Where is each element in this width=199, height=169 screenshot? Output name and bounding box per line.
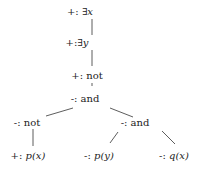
edge-and-to-not <box>46 108 73 116</box>
node-sign: +: <box>71 70 83 81</box>
node-label: ∃x <box>82 6 93 17</box>
node-sign: -: <box>71 93 78 104</box>
edge-and-to-qx <box>162 131 175 144</box>
node-sign: -: <box>121 117 128 128</box>
edge-and-to-and <box>110 108 133 117</box>
node-sign: +: <box>67 6 79 17</box>
node-label: not <box>24 117 40 128</box>
node-and-root: -: and <box>71 93 100 105</box>
node-label: p(y) <box>94 150 114 161</box>
node-p-x: +: p(x) <box>11 150 46 162</box>
node-sign: -: <box>14 117 21 128</box>
node-and-right: -: and <box>121 117 150 129</box>
node-sign: +: <box>66 37 78 48</box>
node-sign: -: <box>159 150 166 161</box>
node-not-root: +: not <box>71 70 102 82</box>
node-label: not <box>86 70 102 81</box>
tree-edges <box>0 0 199 169</box>
node-sign: +: <box>11 150 23 161</box>
signed-formula-tree: +: ∃x +:∃y +: not -: and -: not -: and +… <box>0 0 199 169</box>
node-label: ∃y <box>77 37 88 48</box>
node-exists-x: +: ∃x <box>67 6 93 18</box>
node-exists-y: +:∃y <box>66 37 89 49</box>
node-p-y: -: p(y) <box>84 150 114 162</box>
node-label: p(x) <box>26 150 46 161</box>
node-not-left: -: not <box>14 117 40 129</box>
edge-and-to-py <box>110 132 118 143</box>
node-label: and <box>131 117 150 128</box>
node-label: and <box>81 93 100 104</box>
node-label: q(x) <box>169 150 189 161</box>
node-sign: -: <box>84 150 91 161</box>
node-q-x: -: q(x) <box>159 150 189 162</box>
